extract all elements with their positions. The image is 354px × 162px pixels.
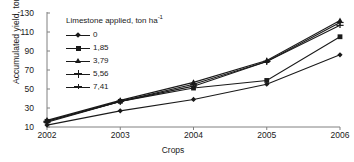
legend-item-5,56[interactable]: 5,56	[66, 68, 163, 81]
legend-item-0[interactable]: 0	[66, 29, 163, 42]
legend-item-1,85[interactable]: 1,85	[66, 42, 163, 55]
legend-marker-square-icon	[66, 43, 90, 54]
data-point-diamond	[118, 108, 123, 113]
legend-marker-dash-icon	[66, 82, 90, 93]
legend-label: 0	[93, 30, 97, 40]
legend-label: 3,79	[93, 56, 109, 66]
legend-label: 7,41	[93, 82, 109, 92]
chart-legend: Limestone applied, ton ha-1 01,853,795,5…	[66, 12, 163, 94]
data-point-diamond	[337, 52, 342, 57]
legend-title: Limestone applied, ton ha-1	[66, 12, 163, 26]
legend-item-3,79[interactable]: 3,79	[66, 55, 163, 68]
data-point-square	[338, 34, 343, 39]
legend-title-superscript: -1	[158, 14, 163, 20]
legend-label: 5,56	[93, 69, 109, 79]
legend-item-7,41[interactable]: 7,41	[66, 81, 163, 94]
data-point-square	[264, 78, 269, 83]
legend-title-text: Limestone applied, ton ha	[66, 16, 158, 25]
legend-marker-cross-icon	[66, 69, 90, 80]
legend-marker-diamond-icon	[66, 30, 90, 41]
legend-entries: 01,853,795,567,41	[66, 29, 163, 94]
legend-label: 1,85	[93, 43, 109, 53]
data-point-diamond	[191, 97, 196, 102]
legend-marker-triangle-icon	[66, 56, 90, 67]
